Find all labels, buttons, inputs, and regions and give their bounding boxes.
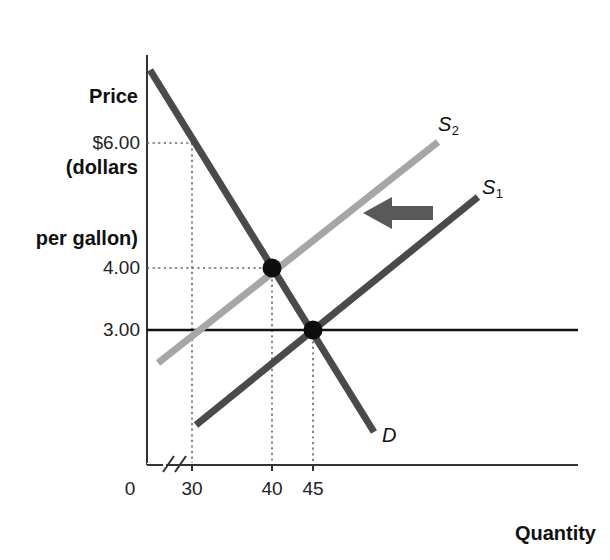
demand-curve bbox=[150, 70, 374, 432]
supply-curve-s2-label: S2 bbox=[438, 113, 459, 137]
x-tick-label-0: 0 bbox=[110, 478, 150, 500]
s2-subscript: 2 bbox=[452, 123, 459, 138]
s1-subscript: 1 bbox=[496, 186, 503, 201]
x-axis-break-icon bbox=[147, 456, 578, 472]
y-axis-title-line-1: Price bbox=[14, 85, 138, 109]
s1-base: S bbox=[482, 176, 495, 198]
supply-shift-arrow-icon bbox=[363, 197, 433, 229]
x-axis-title: Quantity (millions of gallons per month) bbox=[348, 475, 596, 560]
equilibrium-point-new bbox=[263, 259, 282, 278]
supply-curve-s1 bbox=[196, 197, 478, 425]
x-tick-label-30: 30 bbox=[172, 478, 212, 500]
y-tick-label-4-00: 4.00 bbox=[58, 257, 140, 279]
x-tick-label-40: 40 bbox=[252, 478, 292, 500]
supply-curve-s1-label: S1 bbox=[482, 176, 503, 200]
s2-base: S bbox=[438, 113, 451, 135]
demand-curve-label: D bbox=[382, 424, 396, 448]
x-axis-title-line-1: Quantity bbox=[348, 522, 596, 546]
y-axis-title-line-3: per gallon) bbox=[14, 227, 138, 251]
y-tick-label-3-00: 3.00 bbox=[58, 319, 140, 341]
equilibrium-point-original bbox=[304, 321, 323, 340]
y-axis-title-line-2: (dollars bbox=[14, 156, 138, 180]
supply-demand-chart: Price (dollars per gallon) $6.00 4.00 3.… bbox=[0, 0, 610, 560]
y-tick-label-6-00: $6.00 bbox=[58, 132, 140, 154]
x-tick-label-45: 45 bbox=[293, 478, 333, 500]
